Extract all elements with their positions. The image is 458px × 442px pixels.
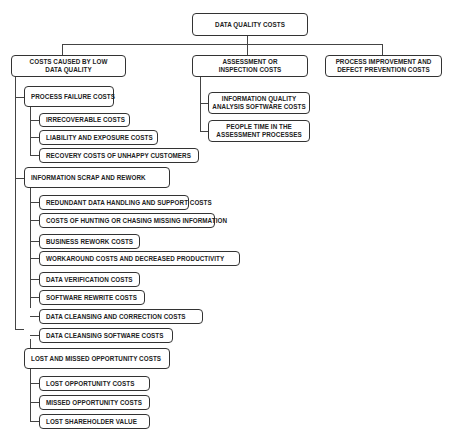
node-label: DATA QUALITY COSTS <box>215 21 285 29</box>
node-label: LIABILITY AND EXPOSURE COSTS <box>46 134 153 142</box>
node-software-rewrite-costs: SOFTWARE REWRITE COSTS <box>39 290 145 305</box>
node-label: LOST SHAREHOLDER VALUE <box>46 418 137 426</box>
connector-g1-i3 <box>30 155 39 156</box>
node-label: SOFTWARE REWRITE COSTS <box>46 294 137 302</box>
node-label-line2: DATA QUALITY <box>45 66 91 74</box>
connector-g2-i7 <box>30 316 39 317</box>
connector-g2-i1 <box>30 202 39 203</box>
node-data-verification-costs: DATA VERIFICATION COSTS <box>39 272 140 287</box>
node-redundant-data-handling: REDUNDANT DATA HANDLING AND SUPPORT COST… <box>39 195 189 210</box>
node-data-quality-costs: DATA QUALITY COSTS <box>192 13 308 36</box>
node-label: RECOVERY COSTS OF UNHAPPY CUSTOMERS <box>46 152 191 160</box>
node-lost-opportunity-costs: LOST OPPORTUNITY COSTS <box>39 376 150 391</box>
connector-group2-spine <box>30 188 31 308</box>
connector-g2-i5 <box>30 279 39 280</box>
node-label-line1: PROCESS IMPROVEMENT AND <box>336 58 432 66</box>
connector-group1-spine <box>30 107 31 155</box>
node-label-line2: ASSESSMENT PROCESSES <box>216 131 301 139</box>
node-label: WORKAROUND COSTS AND DECREASED PRODUCTIV… <box>46 255 224 263</box>
connector-g3-i2 <box>30 402 39 403</box>
node-label: MISSED OPPORTUNITY COSTS <box>46 399 142 407</box>
node-workaround-costs: WORKAROUND COSTS AND DECREASED PRODUCTIV… <box>39 251 240 266</box>
node-assessment-or-inspection-costs: ASSESSMENT OR INSPECTION COSTS <box>192 55 308 77</box>
connector-g2-i3 <box>30 241 39 242</box>
node-information-scrap-rework: INFORMATION SCRAP AND REWORK <box>24 167 170 188</box>
node-information-quality-analysis-software-costs: INFORMATION QUALITY ANALYSIS SOFTWARE CO… <box>208 92 310 114</box>
connector-g2-i8 <box>30 335 39 336</box>
node-label: LOST AND MISSED OPPORTUNITY COSTS <box>31 355 161 363</box>
node-missed-opportunity-costs: MISSED OPPORTUNITY COSTS <box>39 395 150 410</box>
node-label-line2: INSPECTION COSTS <box>219 66 282 74</box>
node-irrecoverable-costs: IRRECOVERABLE COSTS <box>39 113 130 127</box>
connector-cat1-spine <box>15 76 16 330</box>
connector-group1 <box>15 97 24 98</box>
node-label-line1: COSTS CAUSED BY LOW <box>30 58 108 66</box>
connector-g1-i2 <box>30 137 39 138</box>
node-data-cleansing-software-costs: DATA CLEANSING SOFTWARE COSTS <box>39 328 173 343</box>
connector-group3 <box>15 329 24 330</box>
connector-cat3-drop <box>382 44 383 55</box>
node-lost-missed-opportunity-costs: LOST AND MISSED OPPORTUNITY COSTS <box>24 348 170 369</box>
node-costs-caused-by-low-data-quality: COSTS CAUSED BY LOW DATA QUALITY <box>11 55 126 77</box>
node-label-line1: PEOPLE TIME IN THE <box>226 123 292 131</box>
connector-group2 <box>15 178 24 179</box>
node-label: INFORMATION SCRAP AND REWORK <box>31 174 146 182</box>
node-costs-hunting-missing-info: COSTS OF HUNTING OR CHASING MISSING INFO… <box>39 213 215 228</box>
node-label: IRRECOVERABLE COSTS <box>46 116 125 124</box>
connector-g3-i3 <box>30 421 39 422</box>
node-label: REDUNDANT DATA HANDLING AND SUPPORT COST… <box>46 199 212 207</box>
node-process-improvement-costs: PROCESS IMPROVEMENT AND DEFECT PREVENTIO… <box>325 55 442 77</box>
node-label: DATA CLEANSING AND CORRECTION COSTS <box>46 313 186 321</box>
node-lost-shareholder-value: LOST SHAREHOLDER VALUE <box>39 414 150 429</box>
connector-g2-i4 <box>30 258 39 259</box>
connector-g2-i6 <box>30 297 39 298</box>
node-label: DATA VERIFICATION COSTS <box>46 276 133 284</box>
connector-c2-i2 <box>200 131 208 132</box>
node-label: COSTS OF HUNTING OR CHASING MISSING INFO… <box>46 217 227 225</box>
node-label: BUSINESS REWORK COSTS <box>46 238 133 246</box>
connector-top-horizontal <box>62 44 383 45</box>
connector-g1-i1 <box>30 120 39 121</box>
connector-c2-i1 <box>200 103 208 104</box>
node-label: PROCESS FAILURE COSTS <box>31 93 115 101</box>
connector-cat2-drop <box>247 44 248 55</box>
node-process-failure-costs: PROCESS FAILURE COSTS <box>24 86 114 107</box>
node-people-time-assessment: PEOPLE TIME IN THE ASSESSMENT PROCESSES <box>208 120 310 142</box>
node-business-rework-costs: BUSINESS REWORK COSTS <box>39 234 140 249</box>
connector-g2-i2 <box>30 220 39 221</box>
node-recovery-costs-unhappy-customers: RECOVERY COSTS OF UNHAPPY CUSTOMERS <box>39 148 199 163</box>
node-label-line2: DEFECT PREVENTION COSTS <box>337 66 429 74</box>
node-data-cleansing-correction-costs: DATA CLEANSING AND CORRECTION COSTS <box>39 309 203 324</box>
node-label: DATA CLEANSING SOFTWARE COSTS <box>46 332 163 340</box>
node-liability-exposure-costs: LIABILITY AND EXPOSURE COSTS <box>39 130 158 145</box>
node-label-line1: INFORMATION QUALITY <box>222 95 296 103</box>
connector-cat1-drop <box>62 44 63 55</box>
node-label: LOST OPPORTUNITY COSTS <box>46 380 134 388</box>
connector-g3-i1 <box>30 383 39 384</box>
node-label-line2: ANALYSIS SOFTWARE COSTS <box>212 103 305 111</box>
node-label-line1: ASSESSMENT OR <box>222 58 277 66</box>
